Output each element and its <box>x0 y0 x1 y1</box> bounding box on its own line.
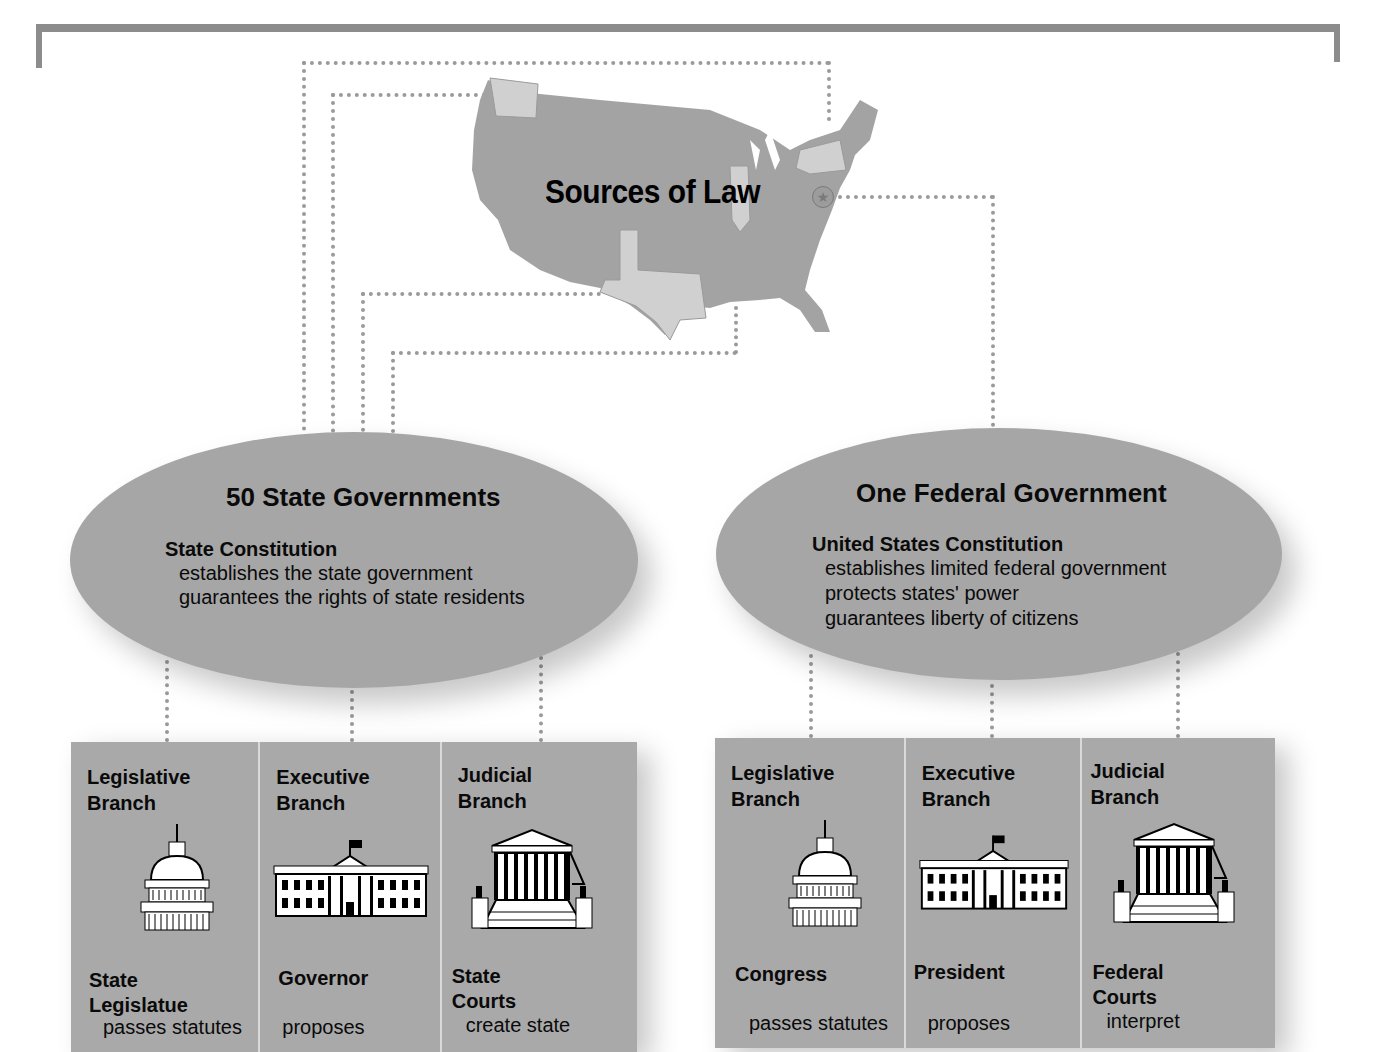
branch-body: President <box>914 960 1005 985</box>
frame-left-border <box>36 24 42 68</box>
branch-body: State Legislatue <box>89 968 188 1018</box>
branch-heading: Judicial Branch <box>1090 758 1164 810</box>
us-constitution-line: guarantees liberty of citizens <box>825 607 1078 630</box>
state-constitution-heading: State Constitution <box>165 538 337 561</box>
state-judicial-column: Judicial Branch State Courts create stat… <box>442 742 637 1052</box>
frame-top-border <box>36 24 1340 32</box>
branch-heading: Legislative Branch <box>731 760 834 812</box>
state-executive-column: Executive Branch Governor proposes <box>260 742 441 1052</box>
state-legislative-column: Legislative Branch State Legislatue pass… <box>71 742 260 1052</box>
diagram-title: Sources of Law <box>545 172 760 211</box>
branch-heading: Executive Branch <box>922 760 1015 812</box>
branch-heading: Executive Branch <box>276 764 369 816</box>
us-constitution-line: protects states' power <box>825 582 1019 605</box>
state-governments-ellipse: 50 State Governments State Constitution … <box>70 432 638 688</box>
branch-role: passes statutes <box>749 1012 888 1035</box>
capitol-dome-icon <box>139 824 215 932</box>
supreme-court-icon <box>468 828 596 930</box>
branch-heading: Judicial Branch <box>458 762 532 814</box>
branch-body: Federal Courts <box>1092 960 1163 1010</box>
branch-role: interpret <box>1106 1010 1179 1033</box>
frame-right-border <box>1334 24 1340 62</box>
white-house-icon <box>918 832 1070 914</box>
us-constitution-line: establishes limited federal government <box>825 557 1166 580</box>
state-constitution-line: establishes the state government <box>179 562 473 585</box>
state-governments-title: 50 State Governments <box>226 482 501 513</box>
us-constitution-heading: United States Constitution <box>812 533 1063 556</box>
federal-government-ellipse: One Federal Government United States Con… <box>716 428 1282 680</box>
state-constitution-line: guarantees the rights of state residents <box>179 586 525 609</box>
branch-role: proposes <box>282 1016 364 1039</box>
star-icon: ★ <box>812 186 834 208</box>
state-branches-panel: Legislative Branch State Legislatue pass… <box>71 742 637 1052</box>
federal-judicial-column: Judicial Branch Federal Courts interpret <box>1082 738 1275 1048</box>
federal-legislative-column: Legislative Branch Congress passes statu… <box>715 738 906 1048</box>
branch-body: Congress <box>735 962 827 987</box>
white-house-icon <box>272 838 430 920</box>
branch-role: proposes <box>928 1012 1010 1035</box>
federal-branches-panel: Legislative Branch Congress passes statu… <box>715 738 1275 1048</box>
branch-role: passes statutes <box>103 1016 242 1039</box>
branch-heading: Legislative Branch <box>87 764 190 816</box>
branch-body: State Courts <box>452 964 516 1014</box>
branch-body: Governor <box>278 966 368 991</box>
branch-role: create state <box>466 1014 571 1037</box>
federal-executive-column: Executive Branch President proposes <box>906 738 1083 1048</box>
federal-government-title: One Federal Government <box>856 478 1167 509</box>
capitol-dome-icon <box>787 820 863 928</box>
supreme-court-icon <box>1110 822 1238 924</box>
